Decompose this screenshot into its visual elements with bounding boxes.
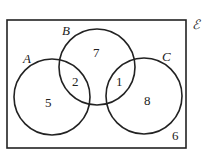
set-b-circle	[59, 29, 135, 105]
set-a-circle	[14, 59, 90, 135]
universal-set-label: ℰ	[192, 17, 201, 32]
region-b-and-c: 1	[116, 74, 123, 89]
region-outside: 6	[172, 128, 179, 143]
region-a-only: 5	[45, 95, 52, 110]
venn-diagram: ℰ A B C 5 2 7 1 8 6	[0, 0, 204, 156]
set-b-label: B	[62, 23, 70, 38]
region-b-only: 7	[93, 45, 100, 60]
region-c-only: 8	[144, 93, 151, 108]
universal-set-rectangle	[7, 20, 186, 148]
set-a-label: A	[22, 51, 31, 66]
region-a-and-b: 2	[72, 74, 79, 89]
set-c-label: C	[162, 49, 171, 64]
